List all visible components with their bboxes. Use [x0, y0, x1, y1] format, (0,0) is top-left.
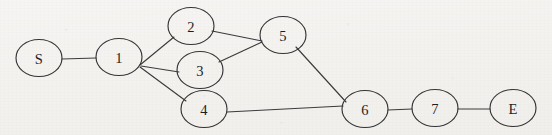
graph-edge-2-5: [212, 31, 262, 41]
graph-edge-4-6: [227, 106, 343, 112]
graph-edge-1-2: [140, 37, 174, 65]
graph-diagram: S1234567E: [0, 0, 552, 135]
node-label-1: 1: [115, 50, 122, 66]
edge-layer: [62, 31, 490, 112]
node-label-6: 6: [361, 102, 368, 118]
graph-edge-6-7: [388, 109, 412, 110]
graph-node-6: 6: [342, 91, 388, 128]
graph-edge-3-5: [219, 42, 262, 62]
graph-node-E: E: [490, 90, 536, 127]
graph-node-3: 3: [177, 52, 223, 89]
graph-node-1: 1: [96, 39, 142, 76]
graph-node-4: 4: [181, 91, 227, 128]
node-label-S: S: [35, 51, 43, 67]
graph-node-2: 2: [168, 8, 214, 45]
graph-edge-5-6: [296, 47, 346, 102]
graph-node-7: 7: [412, 90, 458, 127]
node-label-4: 4: [200, 102, 208, 118]
node-label-3: 3: [196, 63, 203, 79]
graph-edge-1-3: [141, 66, 179, 72]
graph-canvas: S1234567E: [0, 0, 552, 135]
node-label-5: 5: [279, 28, 286, 44]
graph-node-5: 5: [260, 17, 306, 54]
graph-edge-S-1: [62, 58, 96, 59]
node-label-7: 7: [431, 101, 438, 117]
node-label-2: 2: [187, 19, 194, 35]
graph-node-S: S: [16, 40, 62, 77]
node-label-E: E: [508, 101, 517, 117]
